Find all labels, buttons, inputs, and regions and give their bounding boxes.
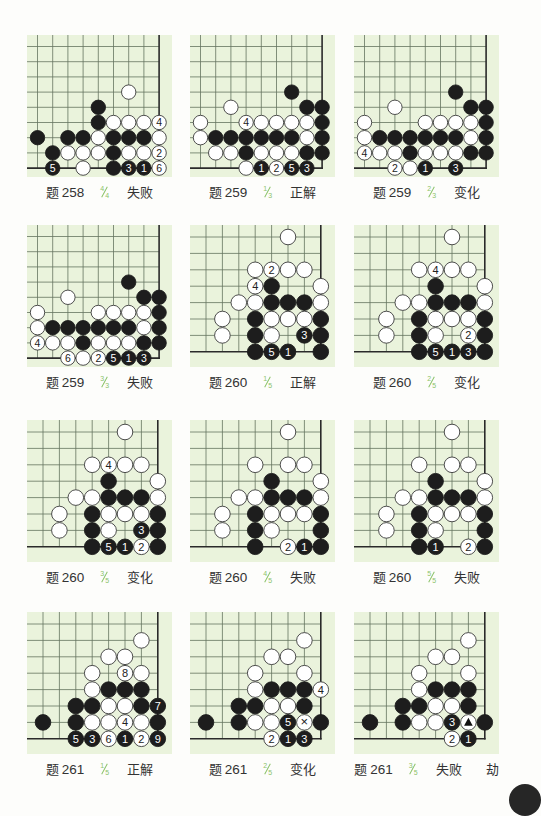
black-stone — [479, 115, 493, 129]
black-stone — [313, 523, 329, 539]
move-number: 6 — [156, 162, 162, 174]
variation-fraction: 15 — [263, 375, 271, 389]
white-stone — [280, 506, 296, 522]
move-number: 3 — [304, 162, 310, 174]
black-stone: 7 — [150, 698, 166, 714]
black-stone — [122, 131, 136, 145]
white-stone — [280, 457, 296, 473]
board-background — [190, 225, 335, 367]
white-stone — [224, 100, 238, 114]
variation-fraction: 25 — [427, 375, 435, 389]
white-stone — [297, 665, 313, 681]
move-number: 4 — [122, 716, 128, 728]
black-stone — [411, 328, 427, 344]
white-stone — [215, 328, 231, 344]
white-stone — [403, 161, 417, 175]
black-stone — [411, 506, 427, 522]
white-stone — [395, 295, 411, 311]
white-stone: 6 — [101, 731, 117, 747]
black-stone: 5 — [264, 344, 280, 360]
black-stone — [264, 490, 280, 506]
black-stone — [428, 278, 444, 294]
white-stone — [313, 295, 329, 311]
white-stone — [137, 115, 151, 129]
white-stone — [101, 715, 117, 731]
white-stone — [30, 321, 44, 335]
black-stone — [461, 490, 477, 506]
fraction-denominator: 5 — [268, 577, 272, 584]
black-stone — [411, 523, 427, 539]
black-stone — [198, 715, 214, 731]
white-stone — [134, 633, 150, 649]
black-stone — [150, 715, 166, 731]
fraction-denominator: 5 — [432, 577, 436, 584]
fraction-denominator: 3 — [268, 192, 272, 199]
white-stone — [117, 698, 133, 714]
black-stone — [477, 344, 493, 360]
white-stone: 2 — [461, 328, 477, 344]
white-stone — [461, 262, 477, 278]
black-stone — [46, 321, 60, 335]
black-stone — [76, 131, 90, 145]
white-stone — [264, 523, 280, 539]
diagram-caption: 题25844失败 — [17, 185, 182, 201]
problem-258-diagram-4-of-4: 425316 题25844失败 — [27, 35, 172, 207]
white-stone — [357, 115, 371, 129]
black-stone — [477, 715, 493, 731]
white-stone — [101, 698, 117, 714]
black-stone — [84, 506, 100, 522]
move-number: 1 — [122, 733, 128, 745]
white-stone — [428, 506, 444, 522]
white-stone — [428, 311, 444, 327]
problem-number: 259 — [225, 185, 248, 200]
move-number: 8 — [122, 667, 128, 679]
move-number: 5 — [289, 162, 295, 174]
cross-marker-icon: × — [301, 714, 309, 729]
black-stone — [264, 278, 280, 294]
white-stone: 2 — [264, 731, 280, 747]
problem-number: 259 — [389, 185, 412, 200]
black-stone — [433, 131, 447, 145]
white-stone — [297, 457, 313, 473]
white-stone — [134, 506, 150, 522]
move-number: 3 — [138, 524, 144, 536]
problem-260-diagram-2-of-5: 42513 题26025变化 — [354, 225, 499, 397]
black-stone — [479, 131, 493, 145]
move-number: 2 — [156, 147, 162, 159]
black-stone: 3 — [444, 715, 460, 731]
problem-number: 258 — [62, 185, 85, 200]
black-stone — [91, 115, 105, 129]
white-stone — [193, 115, 207, 129]
black-stone — [403, 131, 417, 145]
problem-number: 261 — [62, 762, 85, 777]
move-number: 4 — [362, 147, 368, 159]
white-stone: 4 — [428, 262, 444, 278]
white-stone — [428, 715, 444, 731]
white-stone — [395, 490, 411, 506]
black-stone — [313, 715, 329, 731]
black-stone — [464, 100, 478, 114]
white-stone — [411, 262, 427, 278]
black-stone — [247, 698, 263, 714]
result-label: 变化 — [454, 375, 480, 390]
move-number: 1 — [433, 541, 439, 553]
black-stone: 1 — [137, 161, 151, 175]
fraction-denominator: 5 — [268, 382, 272, 389]
variation-fraction: 45 — [263, 570, 271, 584]
white-stone — [52, 523, 68, 539]
white-stone: 4 — [117, 715, 133, 731]
white-stone — [280, 229, 296, 245]
black-stone — [411, 539, 427, 555]
problem-number: 261 — [370, 762, 393, 777]
problem-number: 260 — [225, 375, 248, 390]
white-stone — [76, 146, 90, 160]
white-stone — [76, 351, 90, 365]
result-label: 正解 — [127, 762, 153, 777]
black-stone — [313, 539, 329, 555]
black-stone — [411, 698, 427, 714]
problem-prefix: 题 — [354, 762, 367, 777]
black-stone — [30, 131, 44, 145]
white-stone — [91, 131, 105, 145]
go-board-diagram: 4213 — [354, 35, 499, 177]
problem-259-diagram-2-of-3: 4213 题25923变化 — [354, 35, 499, 207]
